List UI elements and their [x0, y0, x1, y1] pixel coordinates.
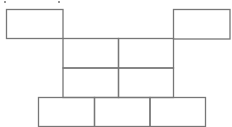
middle-cell-1	[63, 39, 119, 69]
shape-layer	[7, 10, 231, 127]
top-left-box	[7, 10, 64, 39]
top-right-box	[174, 10, 231, 40]
middle-cell-2	[119, 39, 174, 69]
bottom-cell-1	[39, 98, 95, 127]
bottom-cell-3	[150, 98, 206, 127]
middle-cell-4	[119, 68, 174, 98]
clipped-mark-2	[58, 1, 60, 3]
middle-cell-3	[63, 68, 119, 98]
bottom-cell-2	[95, 98, 151, 127]
clipped-mark-1	[4, 1, 6, 3]
rectangle-diagram	[0, 0, 232, 127]
